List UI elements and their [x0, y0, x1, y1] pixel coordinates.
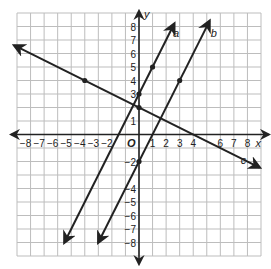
x-tick-label: 3	[177, 138, 183, 149]
y-tick-label: 1	[130, 116, 136, 127]
point-marker	[82, 78, 87, 83]
x-axis-label: x	[255, 137, 262, 149]
y-axis-label: y	[143, 8, 151, 20]
y-tick-label: −2	[125, 157, 137, 168]
x-tick-label: 8	[245, 138, 251, 149]
y-tick-label: 3	[130, 89, 136, 100]
point-marker	[136, 159, 141, 164]
line-a-label: a	[173, 27, 179, 39]
line-b-label: b	[211, 27, 217, 39]
plotted-lines	[14, 21, 259, 242]
x-tick-label: 7	[231, 138, 237, 149]
origin-label: O	[127, 137, 136, 149]
x-tick-label: −2	[101, 138, 113, 149]
x-tick-label: −3	[88, 138, 100, 149]
y-tick-label: −6	[125, 211, 137, 222]
y-tick-label: 7	[130, 35, 136, 46]
y-tick-label: 5	[130, 62, 136, 73]
x-tick-label: −4	[74, 138, 86, 149]
x-tick-label: 2	[163, 138, 169, 149]
x-tick-label: −6	[47, 138, 59, 149]
line-a	[64, 24, 174, 243]
y-tick-label: 4	[130, 76, 136, 87]
x-tick-label: −5	[61, 138, 73, 149]
x-tick-label: −8	[20, 138, 32, 149]
y-tick-label: −7	[125, 224, 137, 235]
y-tick-label: 6	[130, 49, 136, 60]
point-marker	[150, 64, 155, 69]
y-tick-label: −8	[125, 238, 137, 249]
x-tick-label: 4	[190, 138, 196, 149]
coordinate-plane: −8−7−6−5−4−3−212346788765431−2−4−5−6−7−8…	[0, 0, 271, 269]
point-marker	[177, 78, 182, 83]
y-tick-label: −5	[125, 197, 137, 208]
line-c-label: c	[241, 154, 247, 166]
point-marker	[136, 91, 141, 96]
x-tick-label: −7	[33, 138, 45, 149]
y-tick-label: 8	[130, 22, 136, 33]
point-marker	[136, 105, 141, 110]
